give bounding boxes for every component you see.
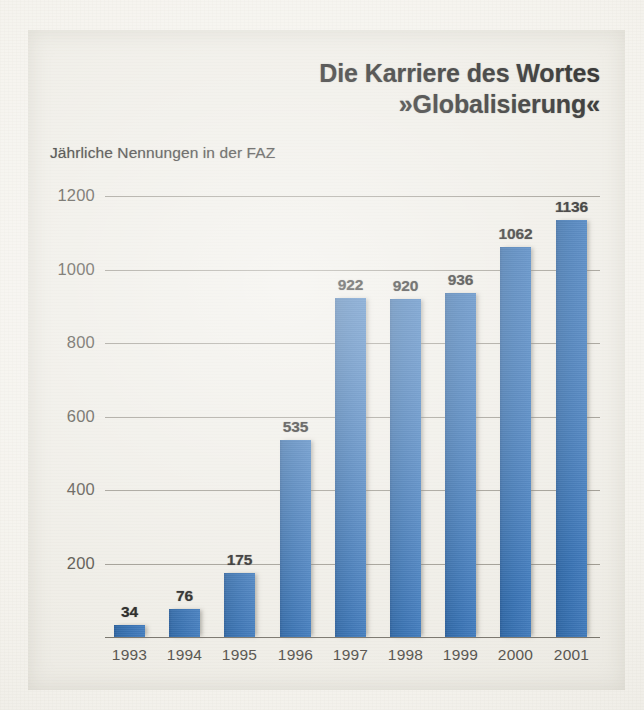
- scanned-page: werden sollte, und an diesem Punkt setzt…: [0, 0, 644, 710]
- bar-value-label: 76: [157, 587, 212, 605]
- bar-chart-plot-area: 20040060080010001200 3419937619941751995…: [28, 30, 625, 690]
- bar-value-label: 1136: [544, 198, 599, 216]
- bar-value-label: 535: [268, 418, 323, 436]
- bar[interactable]: [500, 247, 531, 637]
- bar-group: 11362001: [556, 30, 587, 637]
- bar-group: 10622000: [500, 30, 531, 637]
- bar-value-label: 936: [433, 271, 488, 289]
- bar-value-label: 922: [323, 276, 378, 294]
- y-axis-tick-label: 200: [37, 554, 95, 573]
- x-axis-tick-label: 1998: [376, 646, 435, 664]
- bar[interactable]: [445, 293, 476, 637]
- bar-group: 9361999: [445, 30, 476, 637]
- y-axis-tick-label: 400: [37, 480, 95, 499]
- bar-group: 1751995: [224, 30, 255, 637]
- x-axis-tick-label: 2000: [486, 646, 545, 664]
- x-axis-tick-label: 2001: [542, 646, 601, 664]
- y-axis-tick-label: 600: [37, 407, 95, 426]
- bar-group: 9221997: [335, 30, 366, 637]
- bar-group: 5351996: [280, 30, 311, 637]
- bar[interactable]: [335, 298, 366, 637]
- x-axis-tick-label: 1996: [266, 646, 325, 664]
- chart-panel: Die Karriere des Wortes »Globalisierung«…: [28, 30, 625, 690]
- bar-value-label: 175: [212, 551, 267, 569]
- bar[interactable]: [280, 440, 311, 637]
- x-axis-tick-label: 1994: [155, 646, 214, 664]
- x-axis-tick-label: 1993: [100, 646, 159, 664]
- x-axis-tick-label: 1997: [321, 646, 380, 664]
- x-axis-baseline: [105, 637, 600, 638]
- bar-value-label: 34: [102, 603, 157, 621]
- bar[interactable]: [169, 609, 200, 637]
- bar-group: 341993: [114, 30, 145, 637]
- y-axis-tick-label: 1200: [37, 186, 95, 205]
- x-axis-tick-label: 1999: [431, 646, 490, 664]
- bar[interactable]: [390, 299, 421, 637]
- bar-value-label: 920: [378, 277, 433, 295]
- bar-group: 761994: [169, 30, 200, 637]
- x-axis-tick-label: 1995: [210, 646, 269, 664]
- bar[interactable]: [556, 220, 587, 637]
- bar[interactable]: [224, 573, 255, 637]
- bar[interactable]: [114, 625, 145, 637]
- y-axis-tick-label: 800: [37, 333, 95, 352]
- bar-value-label: 1062: [488, 225, 543, 243]
- bar-group: 9201998: [390, 30, 421, 637]
- y-axis-tick-label: 1000: [37, 260, 95, 279]
